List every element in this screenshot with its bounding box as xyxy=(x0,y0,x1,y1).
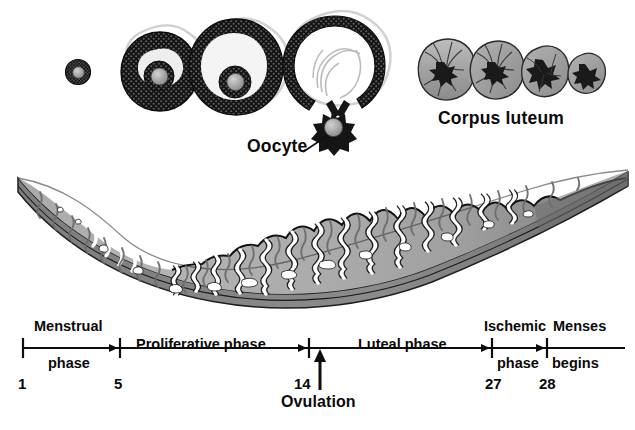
follicle-mature-rupturing xyxy=(283,11,390,131)
corpus-luteum-regressing xyxy=(522,46,569,97)
phase-label-menses-line2: begins xyxy=(552,355,599,371)
phase-label-ischemic-line2: phase xyxy=(497,355,539,371)
figure-canvas: Corpus luteum Oocyte Ovulation Menstrual… xyxy=(0,0,635,430)
corpus-albicans xyxy=(568,53,605,93)
follicle-secondary xyxy=(189,19,289,115)
ovarian-cycle-illustration xyxy=(0,0,635,430)
oocyte-label: Oocyte xyxy=(247,136,308,157)
day-number-27: 27 xyxy=(485,375,502,392)
phase-label-menses-line1: Menses xyxy=(553,318,606,334)
day-number-1: 1 xyxy=(18,375,26,392)
corpus-luteum-mature xyxy=(470,41,524,99)
endometrium-illustration xyxy=(18,170,628,308)
ovulation-arrow xyxy=(314,349,326,390)
day-number-28: 28 xyxy=(539,375,556,392)
phase-label-ischemic-line1: Ischemic xyxy=(484,318,546,334)
corpus-luteum-label: Corpus luteum xyxy=(438,108,564,129)
phase-label-proliferative: Proliferative phase xyxy=(136,336,266,352)
ovulation-label: Ovulation xyxy=(281,393,356,411)
day-number-5: 5 xyxy=(114,375,122,392)
corpus-luteum-early xyxy=(418,39,475,100)
phase-label-menstrual-line2: phase xyxy=(48,355,90,371)
oocyte-structure xyxy=(303,111,357,156)
follicle-primordial xyxy=(66,60,91,85)
day-number-14: 14 xyxy=(294,375,311,392)
phase-label-luteal: Luteal phase xyxy=(358,336,447,352)
phase-label-menstrual-line1: Menstrual xyxy=(34,318,103,334)
